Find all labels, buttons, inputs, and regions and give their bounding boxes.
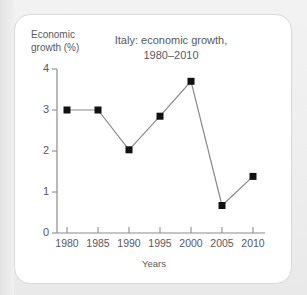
data-point-1995[interactable] <box>157 113 164 120</box>
data-point-1980[interactable] <box>64 107 71 114</box>
plot-svg <box>15 15 293 285</box>
data-point-1990[interactable] <box>126 146 133 153</box>
chart-area: Economic growth (%) Italy: economic grow… <box>15 15 293 285</box>
data-point-1985[interactable] <box>95 107 102 114</box>
data-markers <box>64 78 257 209</box>
page-gutter-shadow <box>0 0 14 295</box>
figure-card: Economic growth (%) Italy: economic grow… <box>14 14 292 284</box>
y-tick-marks <box>52 69 57 233</box>
data-point-2000[interactable] <box>188 78 195 85</box>
data-point-2005[interactable] <box>219 202 226 209</box>
data-point-2010[interactable] <box>250 173 257 180</box>
x-tick-marks <box>67 227 253 233</box>
data-line <box>67 81 253 205</box>
